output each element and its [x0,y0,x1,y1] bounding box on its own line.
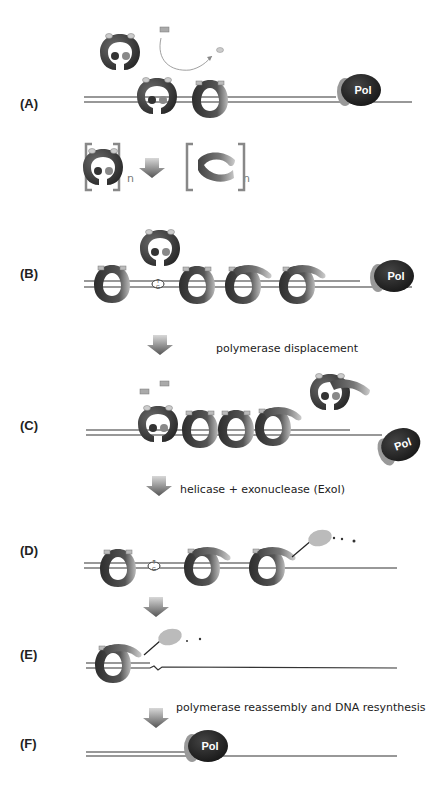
polymerase-icon: Pol [337,74,381,106]
nucleotide-icon [333,537,335,539]
equilibrium-arrow-icon [139,158,165,178]
open-clamp-oligomer-icon [83,149,123,186]
helix-clamp-d3-icon [249,547,296,586]
panel-c: Pol [86,374,425,468]
clamp-c2-icon [182,410,218,448]
svg-text:Pol: Pol [201,740,218,752]
bracket-right-open [187,144,193,190]
svg-text:Pol: Pol [387,270,404,282]
open-clamp-c-icon [138,406,178,443]
step-arrow-1-icon [147,335,173,355]
step-arrow-3-icon [143,597,169,617]
displaced-clamp-complex-icon [310,374,370,411]
helical-oligomer-icon [198,153,235,182]
nucleotide-icon [341,538,343,540]
polymerase-label: Pol [354,84,371,96]
loaded-open-clamp-icon [137,78,177,115]
atp-c2-icon [160,381,169,386]
helix-clamp-b3-icon [225,265,272,304]
exonuclease-e-icon [156,626,183,648]
helix-clamp-d2-icon [184,547,231,586]
panel-a: Pol [84,27,412,118]
bracket-right-close [238,144,244,190]
clamp-b1-icon [94,265,130,303]
free-open-clamp-icon [100,34,140,71]
mismatch-bubble-d: T G [148,559,160,572]
panel-d: T G [84,527,397,587]
exonuclease-tether-e [144,641,160,655]
panel-f: Pol [86,730,397,762]
exonuclease-icon [306,527,333,549]
clamp-b2-icon [179,266,215,304]
mismatch-bubble-b: T G [152,278,164,290]
helix-clamp-c4-icon [255,407,302,446]
exonuclease-tether [292,540,312,557]
clamp-c3-icon [218,410,254,448]
diagram-canvas: Pol T G Pol [0,0,437,796]
displaced-polymerase-icon: Pol [373,423,425,468]
curved-arrow-icon [160,38,212,70]
polymerase-b-icon: Pol [370,260,414,292]
atp-c1-icon [140,389,149,394]
nucleotide-icon [353,540,356,543]
svg-text:G: G [156,284,160,290]
nucleotide-icon [186,640,188,642]
svg-text:T: T [152,559,155,565]
atp-icon [160,27,169,32]
adp-icon [217,48,224,53]
open-clamp-b-icon [140,230,180,267]
step-arrow-4-icon [143,708,169,728]
nucleotide-icon [199,638,201,640]
panel-e [86,626,397,683]
panel-b: T G Pol [84,230,414,305]
helix-clamp-b4-icon [279,265,326,304]
closed-clamp-icon [192,80,228,118]
oligomer-equilibrium [83,144,244,190]
svg-text:G: G [152,566,156,572]
polymerase-f-icon: Pol [184,730,228,762]
step-arrow-2-icon [146,476,172,496]
